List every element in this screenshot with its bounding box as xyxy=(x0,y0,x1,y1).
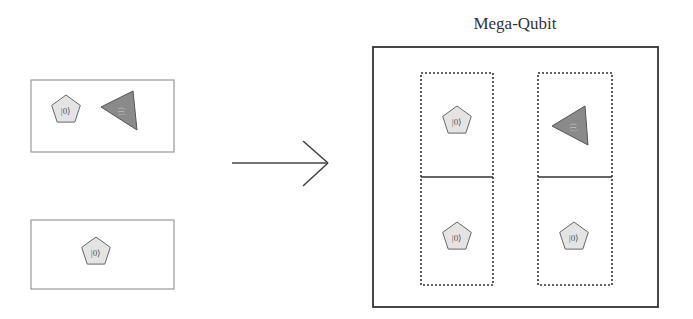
bottom-qubit-group: |0⟩ xyxy=(31,220,174,289)
right-arrow-icon xyxy=(232,141,328,186)
pentagon-label: |0⟩ xyxy=(452,117,462,127)
pentagon-icon: |0⟩ xyxy=(443,106,472,133)
pentagon-label: |0⟩ xyxy=(452,233,462,243)
triangle-icon: |1⟩ xyxy=(552,106,588,145)
mega-column-right: |1⟩ |0⟩ xyxy=(538,73,612,285)
top-qubit-group: |0⟩ |1⟩ xyxy=(31,80,174,152)
triangle-label: |1⟩ xyxy=(117,107,126,116)
pentagon-icon: |0⟩ xyxy=(443,222,472,249)
pentagon-label: |0⟩ xyxy=(91,248,101,258)
pentagon-icon: |0⟩ xyxy=(560,222,589,249)
group-box xyxy=(31,80,174,152)
mega-qubit-title: Mega-Qubit xyxy=(415,14,615,34)
diagram-svg: |0⟩ |1⟩ |0⟩ xyxy=(0,0,693,319)
pentagon-label: |0⟩ xyxy=(61,106,71,116)
triangle-icon: |1⟩ xyxy=(101,91,137,130)
pentagon-label: |0⟩ xyxy=(569,233,579,243)
pentagon-icon: |0⟩ xyxy=(52,95,81,122)
pentagon-icon: |0⟩ xyxy=(82,237,111,264)
mega-column-left: |0⟩ |0⟩ xyxy=(421,73,493,285)
diagram-canvas: Mega-Qubit |0⟩ |1⟩ |0⟩ xyxy=(0,0,693,319)
triangle-label: |1⟩ xyxy=(569,123,578,132)
mega-qubit-box: |0⟩ |0⟩ |1⟩ |0⟩ xyxy=(373,47,658,307)
